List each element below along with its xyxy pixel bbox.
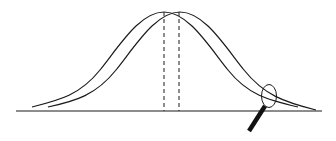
distribution-curve-b [48, 12, 316, 110]
distribution-curve-a [32, 12, 298, 107]
magnifier-handle [249, 106, 265, 131]
normal-distributions-diagram [0, 0, 336, 141]
